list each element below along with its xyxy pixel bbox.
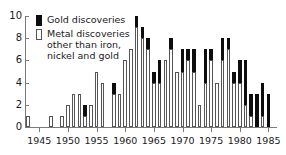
bar-1950 xyxy=(66,105,70,127)
bar-segment-gold xyxy=(249,94,253,116)
y-axis-label-text: 2 xyxy=(4,100,22,110)
bar-segment-gold xyxy=(112,83,116,94)
bar-1955 xyxy=(95,72,99,128)
bar-segment-metal xyxy=(83,116,87,127)
bar-segment-metal xyxy=(118,94,122,127)
y-axis-label: 8 xyxy=(0,33,22,43)
bar-1984 xyxy=(261,83,265,127)
bar-segment-metal xyxy=(49,116,53,127)
bar-segment-gold xyxy=(204,49,208,82)
bar-segment-metal xyxy=(232,83,236,127)
bar-segment-metal xyxy=(215,83,219,127)
bar-segment-metal xyxy=(249,116,253,127)
bar-segment-metal xyxy=(261,116,265,127)
bar-segment-metal xyxy=(244,105,248,127)
bar-segment-metal xyxy=(175,72,179,128)
bar-1951 xyxy=(72,94,76,127)
x-axis-tick xyxy=(211,128,212,132)
y-axis-tick xyxy=(25,127,29,128)
bar-1953 xyxy=(83,105,87,127)
bar-1974 xyxy=(204,49,208,127)
y-axis-label: 10 xyxy=(0,11,22,21)
bar-segment-gold xyxy=(169,38,173,49)
legend-label-metal: Metal discoveries other than iron, nicke… xyxy=(47,28,166,61)
x-axis-label: 1985 xyxy=(253,136,283,146)
bar-1976 xyxy=(215,83,219,127)
bar-1968 xyxy=(169,38,173,127)
x-axis-label: 1965 xyxy=(139,136,169,146)
legend-item-metal: Metal discoveries other than iron, nicke… xyxy=(36,28,166,61)
legend-label-gold: Gold discoveries xyxy=(47,14,166,25)
x-axis-tick xyxy=(68,128,69,132)
legend-item-gold: Gold discoveries xyxy=(36,14,166,25)
bar-segment-metal xyxy=(78,94,82,127)
bar-1958 xyxy=(112,83,116,127)
bar-1981 xyxy=(244,60,248,127)
bar-segment-metal xyxy=(221,60,225,127)
bar-segment-metal xyxy=(101,83,105,127)
bar-segment-metal xyxy=(26,116,30,127)
bar-segment-metal xyxy=(72,94,76,127)
bar-segment-gold xyxy=(186,49,190,60)
bar-1969 xyxy=(175,72,179,128)
bar-1956 xyxy=(101,83,105,127)
bar-segment-metal xyxy=(198,105,202,127)
bar-segment-gold xyxy=(267,94,271,127)
gold-swatch-icon xyxy=(36,15,42,26)
bar-segment-metal xyxy=(152,83,156,127)
bar-segment-metal xyxy=(60,116,64,127)
x-axis-tick xyxy=(154,128,155,132)
bar-1983 xyxy=(255,94,259,127)
x-axis-tick xyxy=(183,128,184,132)
bar-segment-gold xyxy=(261,83,265,116)
y-axis-label: 0 xyxy=(0,122,22,132)
bar-segment-gold xyxy=(227,38,231,49)
y-axis-label: 6 xyxy=(0,55,22,65)
x-axis-tick xyxy=(268,128,269,132)
bar-1977 xyxy=(221,38,225,127)
bar-1965 xyxy=(152,72,156,128)
bar-segment-metal xyxy=(169,49,173,127)
bar-1972 xyxy=(192,49,196,127)
x-axis-label: 1950 xyxy=(53,136,83,146)
x-axis-label: 1945 xyxy=(24,136,54,146)
bar-1975 xyxy=(209,49,213,127)
y-axis-label: 4 xyxy=(0,78,22,88)
chart-legend: Gold discoveries Metal discoveries other… xyxy=(36,14,166,64)
bar-segment-metal xyxy=(209,60,213,127)
bar-segment-metal xyxy=(112,94,116,127)
y-axis-label-text: 6 xyxy=(4,55,22,65)
y-axis-label-text: 10 xyxy=(4,11,22,21)
bar-1943 xyxy=(26,116,30,127)
bar-segment-metal xyxy=(164,60,168,127)
x-axis-label: 1975 xyxy=(196,136,226,146)
bar-1954 xyxy=(89,105,93,127)
x-axis-label: 1970 xyxy=(168,136,198,146)
bar-1967 xyxy=(164,60,168,127)
y-axis-label-text: 4 xyxy=(4,78,22,88)
bar-segment-metal xyxy=(238,83,242,127)
bar-segment-metal xyxy=(204,83,208,127)
bar-segment-gold xyxy=(244,60,248,104)
bar-1970 xyxy=(181,49,185,127)
bar-segment-metal xyxy=(186,60,190,127)
bar-segment-metal xyxy=(192,72,196,128)
bar-segment-gold xyxy=(83,105,87,116)
bar-1959 xyxy=(118,94,122,127)
x-axis-tick xyxy=(240,128,241,132)
bar-segment-metal xyxy=(227,49,231,127)
bar-segment-gold xyxy=(192,49,196,71)
bar-1979 xyxy=(232,72,236,128)
x-axis-label: 1960 xyxy=(110,136,140,146)
bar-segment-gold xyxy=(209,49,213,60)
bar-1980 xyxy=(238,60,242,127)
bar-1952 xyxy=(78,94,82,127)
bar-segment-gold xyxy=(232,72,236,83)
bar-segment-metal xyxy=(158,83,162,127)
bar-1973 xyxy=(198,105,202,127)
bar-1947 xyxy=(49,116,53,127)
bar-1949 xyxy=(60,116,64,127)
chart-figure: 0246810 19451950195519601965197019751980… xyxy=(0,0,286,155)
bar-segment-gold xyxy=(255,94,259,127)
bar-1960 xyxy=(123,60,127,127)
